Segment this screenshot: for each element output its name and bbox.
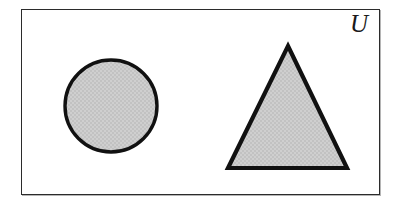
- triangle-shape: [228, 46, 347, 168]
- figure-root: U: [0, 0, 405, 209]
- shape-canvas: [0, 0, 405, 209]
- circle-shape: [65, 60, 157, 152]
